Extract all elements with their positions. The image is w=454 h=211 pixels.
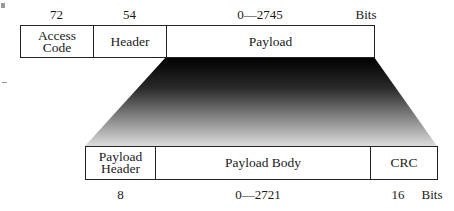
field-payload-header-line2: Header [99,163,143,175]
size-payload: 0—2745 [220,7,300,23]
size-payload-body: 0—2721 [218,187,298,203]
unit-top: Bits [346,7,386,23]
field-payload-body-label: Payload Body [225,157,301,169]
field-header: Header [93,25,167,58]
field-access-code-line2: Code [38,42,76,54]
field-access-code: Access Code [20,25,94,58]
field-payload-label: Payload [249,36,293,48]
field-crc-label: CRC [390,157,417,169]
size-payload-header: 8 [85,187,156,203]
field-payload-body: Payload Body [155,146,371,180]
field-payload: Payload [166,25,375,58]
size-crc: 16 [388,187,408,203]
size-header: 54 [93,7,166,23]
unit-bottom: Bits [414,187,450,203]
size-access-code: 72 [20,7,93,23]
field-crc: CRC [370,146,438,180]
field-payload-header: Payload Header [85,146,156,180]
field-header-label: Header [111,36,150,48]
